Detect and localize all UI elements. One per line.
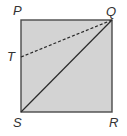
label-r: R [109, 115, 118, 130]
label-p: P [13, 3, 22, 18]
label-s: S [13, 115, 22, 130]
label-q: Q [106, 4, 116, 19]
square-diagram: P Q T S R [0, 0, 127, 136]
label-t: T [7, 49, 16, 64]
